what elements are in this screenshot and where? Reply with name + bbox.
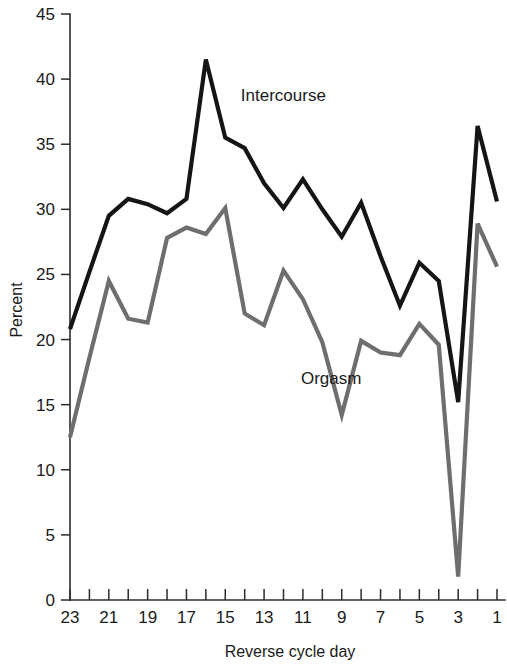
intercourse-label: Intercourse: [241, 86, 326, 105]
series-line-intercourse: [70, 60, 497, 402]
y-tick-label: 35: [36, 135, 55, 154]
y-axis-title: Percent: [8, 282, 25, 338]
y-tick-label: 0: [46, 591, 55, 610]
y-tick-label: 5: [46, 526, 55, 545]
y-axis: 051015202530354045: [36, 5, 70, 610]
x-tick-label: 15: [216, 608, 235, 627]
x-tick-label: 23: [61, 608, 80, 627]
x-tick-label: 19: [138, 608, 157, 627]
y-tick-label: 40: [36, 70, 55, 89]
x-tick-label: 1: [492, 608, 501, 627]
y-tick-label: 15: [36, 396, 55, 415]
x-axis-title: Reverse cycle day: [225, 643, 356, 660]
x-tick-label: 17: [177, 608, 196, 627]
y-tick-label: 45: [36, 5, 55, 24]
y-tick-label: 20: [36, 331, 55, 350]
x-tick-label: 9: [337, 608, 346, 627]
x-axis: 2321191715131197531: [61, 589, 505, 627]
x-tick-label: 21: [99, 608, 118, 627]
data-series-group: [70, 60, 497, 577]
x-tick-label: 13: [255, 608, 274, 627]
series-line-orgasm: [70, 208, 497, 577]
y-tick-label: 10: [36, 461, 55, 480]
line-chart: 051015202530354045 2321191715131197531 I…: [0, 0, 507, 666]
chart-container: 051015202530354045 2321191715131197531 I…: [0, 0, 507, 666]
x-tick-label: 3: [453, 608, 462, 627]
x-tick-label: 7: [376, 608, 385, 627]
x-tick-label: 5: [415, 608, 424, 627]
orgasm-label: Orgasm: [301, 369, 361, 388]
y-tick-label: 25: [36, 265, 55, 284]
y-tick-label: 30: [36, 200, 55, 219]
x-tick-label: 11: [294, 608, 312, 627]
